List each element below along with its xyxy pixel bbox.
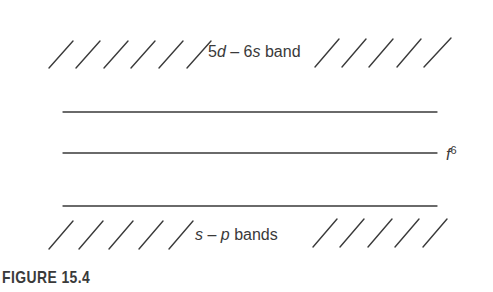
label-part: p bbox=[221, 226, 230, 243]
f6-level-label: f6 bbox=[446, 144, 457, 164]
label-part: s bbox=[253, 43, 261, 60]
label-part: – 6 bbox=[226, 43, 253, 60]
label-superscript: 6 bbox=[450, 144, 456, 156]
figure-caption: FIGURE 15.4 bbox=[2, 268, 90, 288]
label-part: – bbox=[203, 226, 221, 243]
lower-band-label: s – p bands bbox=[195, 226, 278, 244]
label-part: bands bbox=[230, 226, 278, 243]
label-part: s bbox=[195, 226, 203, 243]
label-part: band bbox=[261, 43, 301, 60]
upper-band-label: 5d – 6s band bbox=[208, 43, 301, 61]
label-part: d bbox=[217, 43, 226, 60]
label-part: 5 bbox=[208, 43, 217, 60]
